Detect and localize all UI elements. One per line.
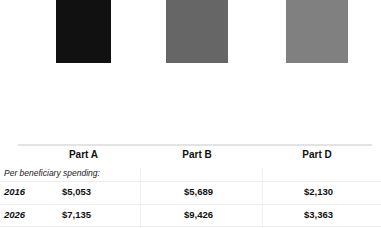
bar-group-part-a[interactable]: 3.5% <box>56 0 111 63</box>
bar-group-part-b[interactable]: 5.2% <box>166 0 228 63</box>
table-note: Per beneficiary spending: <box>4 168 100 178</box>
cell-2026-part-a: $7,135 <box>62 209 91 220</box>
bar-part-a[interactable] <box>56 0 111 63</box>
category-label-part-d: Part D <box>286 149 348 160</box>
cell-2016-part-b: $5,689 <box>184 186 213 197</box>
bar-group-part-d[interactable]: 4.7% <box>286 0 348 63</box>
plot-area: 3.5% 5.2% 4.7% <box>0 0 381 146</box>
row-header-2016: 2016 <box>4 186 25 197</box>
table-row: 2026 $7,135 $9,426 $3,363 <box>0 205 381 227</box>
category-axis-labels: Part A Part B Part D <box>0 146 381 166</box>
bar-part-d[interactable] <box>286 0 348 63</box>
table-row: 2016 $5,053 $5,689 $2,130 <box>0 182 381 204</box>
category-label-part-b: Part B <box>166 149 228 160</box>
spending-table: Part A Part B Part D Per beneficiary spe… <box>0 146 381 228</box>
cell-2026-part-b: $9,426 <box>184 209 213 220</box>
cell-2016-part-d: $2,130 <box>304 186 333 197</box>
cell-2026-part-d: $3,363 <box>304 209 333 220</box>
category-label-part-a: Part A <box>56 149 111 160</box>
bar-chart-figure: 3.5% 5.2% 4.7% Part A Part B Part D Per … <box>0 0 381 228</box>
bar-part-b[interactable] <box>166 0 228 63</box>
cell-2016-part-a: $5,053 <box>62 186 91 197</box>
row-header-2026: 2026 <box>4 209 25 220</box>
